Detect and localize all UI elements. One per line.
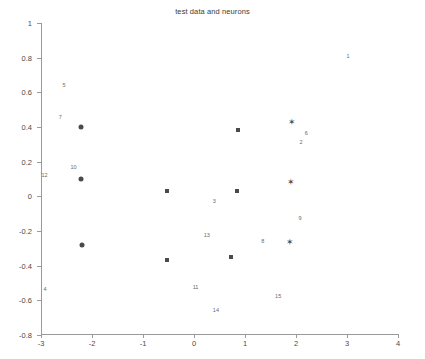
x-tick-label: 1 [230, 339, 260, 348]
x-tick [92, 334, 93, 338]
y-tick [37, 92, 41, 93]
y-tick [37, 196, 41, 197]
point-label: 4 [44, 286, 47, 292]
y-tick [37, 266, 41, 267]
y-tick-label: 0.4 [0, 123, 32, 132]
y-tick-label: 0.6 [0, 88, 32, 97]
y-tick-label: 0.2 [0, 157, 32, 166]
data-point-square [236, 128, 240, 132]
x-tick-label: 2 [281, 339, 311, 348]
point-label: 3 [213, 198, 216, 204]
y-tick-label: 0 [0, 192, 32, 201]
x-axis-line [41, 334, 398, 335]
data-point-square [165, 189, 169, 193]
point-label: 1 [346, 53, 349, 59]
x-tick-label: 3 [332, 339, 362, 348]
data-point-square [229, 255, 233, 259]
y-tick-label: 1 [0, 19, 32, 28]
y-axis-line [41, 23, 42, 335]
point-label: 13 [204, 232, 210, 238]
x-tick-label: -2 [77, 339, 107, 348]
data-point-circle [78, 125, 83, 130]
point-label: 6 [305, 130, 308, 136]
y-tick [37, 300, 41, 301]
y-tick-label: -0.2 [0, 227, 32, 236]
y-tick [37, 23, 41, 24]
y-tick [37, 127, 41, 128]
x-tick [194, 334, 195, 338]
x-tick-label: -1 [128, 339, 158, 348]
x-tick [347, 334, 348, 338]
data-point-star: ✶ [288, 117, 297, 126]
point-label: 15 [275, 293, 281, 299]
point-label: 10 [71, 164, 77, 170]
data-point-circle [78, 177, 83, 182]
point-label: 5 [62, 82, 65, 88]
x-tick-label: -3 [26, 339, 56, 348]
point-label: 8 [261, 238, 264, 244]
y-tick-label: -0.4 [0, 261, 32, 270]
point-label: 9 [299, 215, 302, 221]
y-tick-label: 0.8 [0, 53, 32, 62]
point-label: 7 [59, 114, 62, 120]
point-label: 11 [193, 284, 199, 290]
plot-area: 10.80.60.40.20-0.2-0.4-0.6-0.8 -3-2-1012… [41, 23, 398, 335]
y-tick [37, 231, 41, 232]
x-tick-label: 4 [383, 339, 413, 348]
x-tick [296, 334, 297, 338]
x-tick [398, 334, 399, 338]
point-label: 12 [42, 172, 48, 178]
chart-title: test data and neurons [0, 7, 425, 16]
x-tick [143, 334, 144, 338]
data-point-square [165, 258, 169, 262]
x-tick [245, 334, 246, 338]
x-tick [41, 334, 42, 338]
y-tick [37, 162, 41, 163]
point-label: 14 [213, 307, 219, 313]
y-tick [37, 58, 41, 59]
data-point-circle [79, 242, 84, 247]
x-tick-label: 0 [179, 339, 209, 348]
data-point-star: ✶ [285, 238, 294, 247]
y-tick-label: -0.6 [0, 296, 32, 305]
scatter-plot-figure: test data and neurons 10.80.60.40.20-0.2… [0, 0, 425, 359]
data-point-square [235, 189, 239, 193]
point-label: 2 [300, 139, 303, 145]
data-point-star: ✶ [286, 178, 295, 187]
